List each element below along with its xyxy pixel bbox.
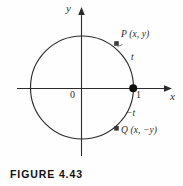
arc-t-label: t [131, 53, 134, 63]
point-p-label: P (x, y) [121, 30, 149, 40]
point-q-marker [114, 126, 119, 131]
origin-label: 0 [70, 90, 75, 100]
x-axis-label: x [170, 91, 175, 102]
figure-container: y x 0 1 P (x, y) Q (x, −y) t −t FIGURE 4… [0, 0, 183, 186]
figure-caption: FIGURE 4.43 [10, 168, 83, 180]
arc-negative-t-label: −t [126, 109, 135, 119]
y-axis-label: y [66, 3, 71, 14]
x-axis [17, 85, 172, 92]
y-axis-arrowhead [78, 7, 85, 15]
unit-circle-diagram [0, 0, 183, 186]
y-axis [78, 7, 85, 156]
point-q-label: Q (x, −y) [121, 126, 157, 136]
point-p-marker [114, 41, 119, 46]
unit-point-label: 1 [136, 90, 141, 100]
